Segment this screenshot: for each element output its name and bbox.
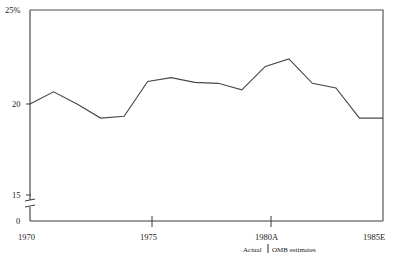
y-tick-label-0: 0 [16, 216, 20, 226]
x-tick-label-1975: 1975 [140, 232, 157, 242]
chart-container: 25% 20 15 0 1970 1975 1980A 1985E Actual… [0, 0, 399, 260]
x-tick-label-1985E: 1985E [363, 232, 385, 242]
line-chart: 25% 20 15 0 1970 1975 1980A 1985E Actual… [0, 0, 399, 260]
x-tick-label-1980A: 1980A [255, 232, 279, 242]
y-tick-label-20: 20 [12, 99, 21, 109]
y-tick-label-15: 15 [12, 190, 21, 200]
y-axis-break-icon [25, 199, 35, 207]
plot-frame [30, 10, 383, 221]
y-tick-label-25: 25% [5, 5, 21, 15]
caption-omb-estimates: OMB estimates [272, 246, 316, 254]
caption-actual: Actual [243, 246, 262, 254]
data-series-line [30, 59, 383, 118]
x-tick-label-1970: 1970 [18, 232, 35, 242]
